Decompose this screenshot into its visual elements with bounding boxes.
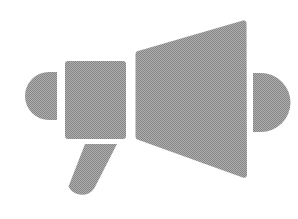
megaphone-icon (0, 0, 298, 219)
speaker-body-icon (65, 61, 126, 139)
icon-canvas: Megaphone (0, 0, 298, 219)
